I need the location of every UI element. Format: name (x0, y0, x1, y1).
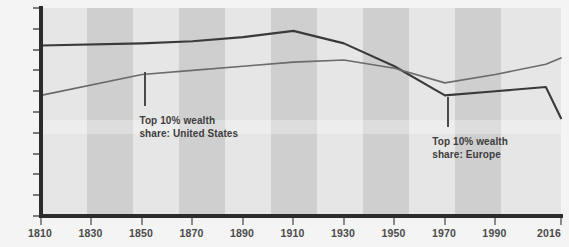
x-axis-tick-label: 1830 (78, 227, 102, 239)
x-axis-tick-mark (343, 218, 345, 225)
series-lines (41, 8, 561, 216)
annotation-leader-line (447, 97, 449, 126)
series-line (41, 58, 561, 95)
x-axis-tick-label: 1890 (230, 227, 254, 239)
y-axis-tick-mark (33, 215, 39, 217)
y-axis-tick-mark (33, 49, 39, 51)
annotation-leader-line (144, 72, 146, 105)
plot-area (41, 8, 561, 216)
x-axis-tick-mark (494, 218, 496, 225)
series-line (41, 31, 561, 118)
annot-united-states: Top 10% wealth share: United States (139, 114, 238, 140)
chart-root: 0102030405060708090100% 1810183018501870… (0, 0, 569, 247)
x-axis-tick-label: 1950 (381, 227, 405, 239)
y-axis-tick-mark (33, 90, 39, 92)
y-axis-tick-mark (33, 153, 39, 155)
y-axis-tick-mark (33, 194, 39, 196)
x-axis-tick-mark (393, 218, 395, 225)
x-axis-tick-label: 2016 (537, 227, 561, 239)
x-axis-tick-label: 1850 (129, 227, 153, 239)
x-axis-tick-label: 1970 (432, 227, 456, 239)
x-axis-tick-label: 1810 (28, 227, 52, 239)
y-axis-line (39, 6, 43, 218)
x-axis-tick-label: 1990 (482, 227, 506, 239)
x-axis-tick-label: 1910 (280, 227, 304, 239)
x-axis-tick-mark (40, 218, 42, 225)
annot-europe: Top 10% wealth share: Europe (432, 135, 508, 161)
x-axis-tick-mark (292, 218, 294, 225)
y-axis-tick-mark (33, 28, 39, 30)
y-axis-tick-mark (33, 69, 39, 71)
x-axis-tick-mark (444, 218, 446, 225)
x-axis-line (39, 214, 563, 218)
x-axis-tick-mark (90, 218, 92, 225)
y-axis-tick-mark (33, 173, 39, 175)
x-axis-tick-mark (191, 218, 193, 225)
x-axis-tick-mark (560, 218, 562, 225)
x-axis-tick-mark (141, 218, 143, 225)
x-axis-tick-label: 1870 (179, 227, 203, 239)
x-axis-tick-label: 1930 (331, 227, 355, 239)
y-axis-tick-mark (33, 132, 39, 134)
y-axis-tick-mark (33, 7, 39, 9)
x-axis-tick-mark (242, 218, 244, 225)
y-axis-tick-mark (33, 111, 39, 113)
